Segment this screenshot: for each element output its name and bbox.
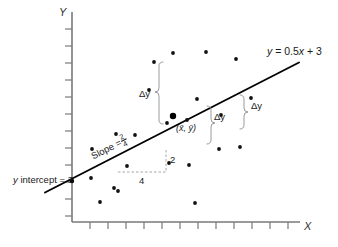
data-point — [195, 97, 199, 101]
regression-line — [45, 63, 299, 193]
data-point — [171, 51, 175, 55]
y-axis-label: Y — [59, 7, 66, 18]
data-point — [89, 176, 93, 180]
mean-point-label: (x̄, ȳ) — [176, 124, 196, 133]
axes-group — [72, 12, 300, 222]
delta-y-brace-left — [155, 62, 163, 124]
plot-canvas — [0, 0, 338, 247]
data-point — [193, 201, 197, 205]
data-point — [98, 200, 102, 204]
run-label: 4 — [139, 176, 144, 186]
x-axis-ticks — [90, 222, 288, 229]
equation-constant: + 3 — [304, 45, 322, 57]
delta-y-label-right: Δy — [251, 101, 262, 111]
data-point — [185, 118, 189, 122]
delta-y-brace-right — [240, 95, 248, 129]
delta-y-label-middle: Δy — [214, 112, 225, 122]
data-point — [133, 133, 137, 137]
delta-symbol: Δy — [139, 88, 150, 99]
regression-equation-label: y = 0.5x + 3 — [267, 46, 322, 57]
rise-label: 2 — [170, 155, 175, 165]
delta-symbol: Δy — [251, 100, 262, 111]
data-point — [152, 60, 156, 64]
data-point — [125, 164, 129, 168]
data-point — [112, 186, 116, 190]
y-intercept-label: y intercept = 3 — [13, 175, 73, 185]
mean-point-marker — [170, 113, 176, 119]
delta-symbol: Δy — [214, 111, 225, 122]
data-point — [234, 57, 238, 61]
data-point — [204, 50, 208, 54]
y-axis-ticks — [65, 29, 72, 216]
data-point — [187, 163, 191, 167]
regression-scatterplot-figure: Y X y = 0.5x + 3 y intercept = 3 Slope =… — [0, 0, 338, 247]
data-point — [217, 147, 221, 151]
data-point — [165, 121, 169, 125]
delta-y-label-left: Δy — [139, 89, 150, 99]
data-point — [238, 145, 242, 149]
y-intercept-text: intercept = 3 — [18, 174, 73, 185]
data-point — [116, 189, 120, 193]
equation-rhs: = 0.5 — [272, 45, 299, 57]
x-axis-label: X — [304, 221, 311, 232]
